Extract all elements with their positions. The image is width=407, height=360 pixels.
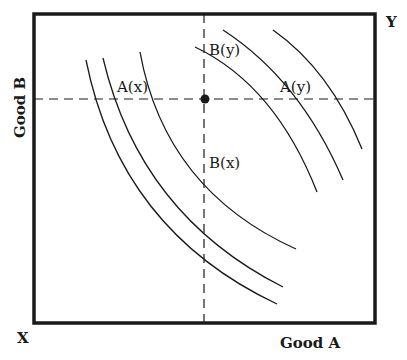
curve-label-by: B(y) [209,43,240,58]
origin-x-label: X [17,331,29,346]
origin-y-label: Y [386,15,397,30]
curve-label-bx: B(x) [209,156,240,171]
horizontal-axis-label: Good A [280,336,340,351]
endowment-point [201,95,210,104]
curve-label-ay: A(y) [280,80,311,95]
curve-label-ax: A(x) [117,80,148,95]
vertical-axis-label: Good B [13,77,28,138]
x-indifference-curve-3 [140,52,296,249]
y-indifference-curve-2 [223,30,343,180]
edgeworth-box-diagram [0,0,407,360]
